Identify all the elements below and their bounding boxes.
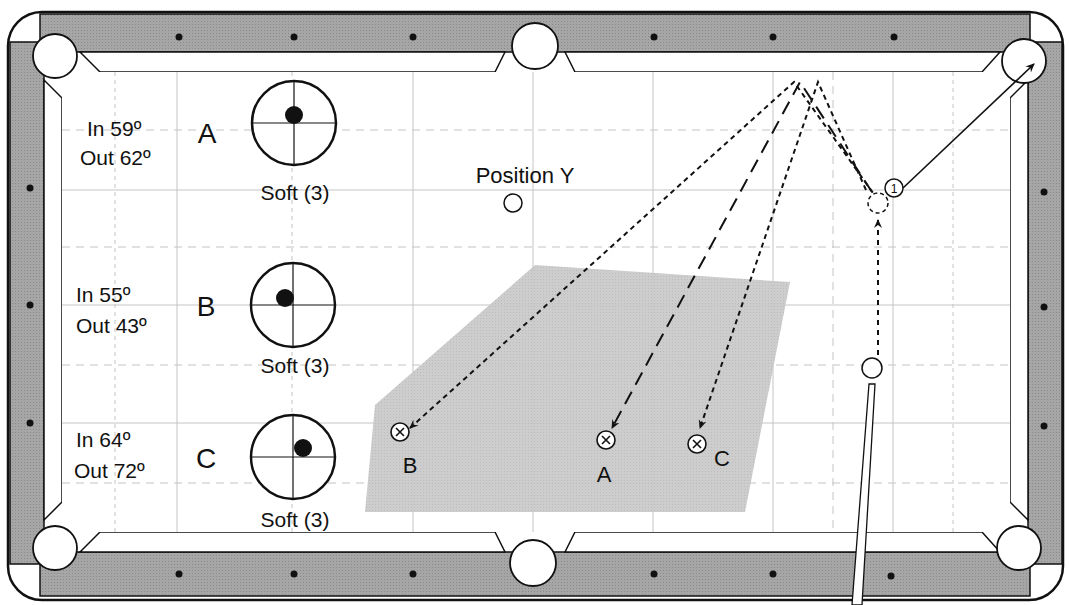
shot-C-speed: Soft (3) xyxy=(261,508,330,531)
tip-contact-dot-A xyxy=(285,106,303,124)
shot-B-letter: B xyxy=(197,291,216,322)
target-label-A: A xyxy=(597,462,612,487)
shot-A-letter: A xyxy=(198,118,217,149)
shot-C-letter: C xyxy=(196,443,216,474)
pocket-bottom-middle xyxy=(510,540,556,586)
position-y-label: Position Y xyxy=(476,163,575,188)
position-y-ball xyxy=(504,194,522,212)
ghost-ball xyxy=(868,193,888,213)
target-label-C: C xyxy=(714,446,730,471)
tip-contact-dot-B xyxy=(276,289,294,307)
target-label-B: B xyxy=(403,453,418,478)
shot-A-in-angle: In 59º xyxy=(87,117,142,140)
tip-contact-dot-C xyxy=(294,439,312,457)
shot-A-out-angle: Out 62º xyxy=(80,146,151,169)
object-ball-label: 1 xyxy=(891,182,898,196)
shot-C-out-angle: Out 72º xyxy=(74,459,145,482)
pocket-bottom-right xyxy=(997,526,1041,570)
shot-B-speed: Soft (3) xyxy=(261,354,330,377)
pocket-top-left xyxy=(33,34,77,78)
shot-B-in-angle: In 55º xyxy=(76,283,131,306)
shot-B-out-angle: Out 43º xyxy=(76,314,147,337)
pocket-top-right xyxy=(1002,39,1046,83)
cue-ball xyxy=(862,358,882,378)
shot-A-speed: Soft (3) xyxy=(261,181,330,204)
target-C xyxy=(688,435,706,453)
pool-table-diagram: 1 B A C Position Y In 59º Out 62º A Soft… xyxy=(0,0,1069,605)
pocket-bottom-left xyxy=(33,526,77,570)
shot-C-in-angle: In 64º xyxy=(76,428,131,451)
target-A xyxy=(597,431,615,449)
target-B xyxy=(391,423,409,441)
pocket-top-middle xyxy=(512,23,558,69)
